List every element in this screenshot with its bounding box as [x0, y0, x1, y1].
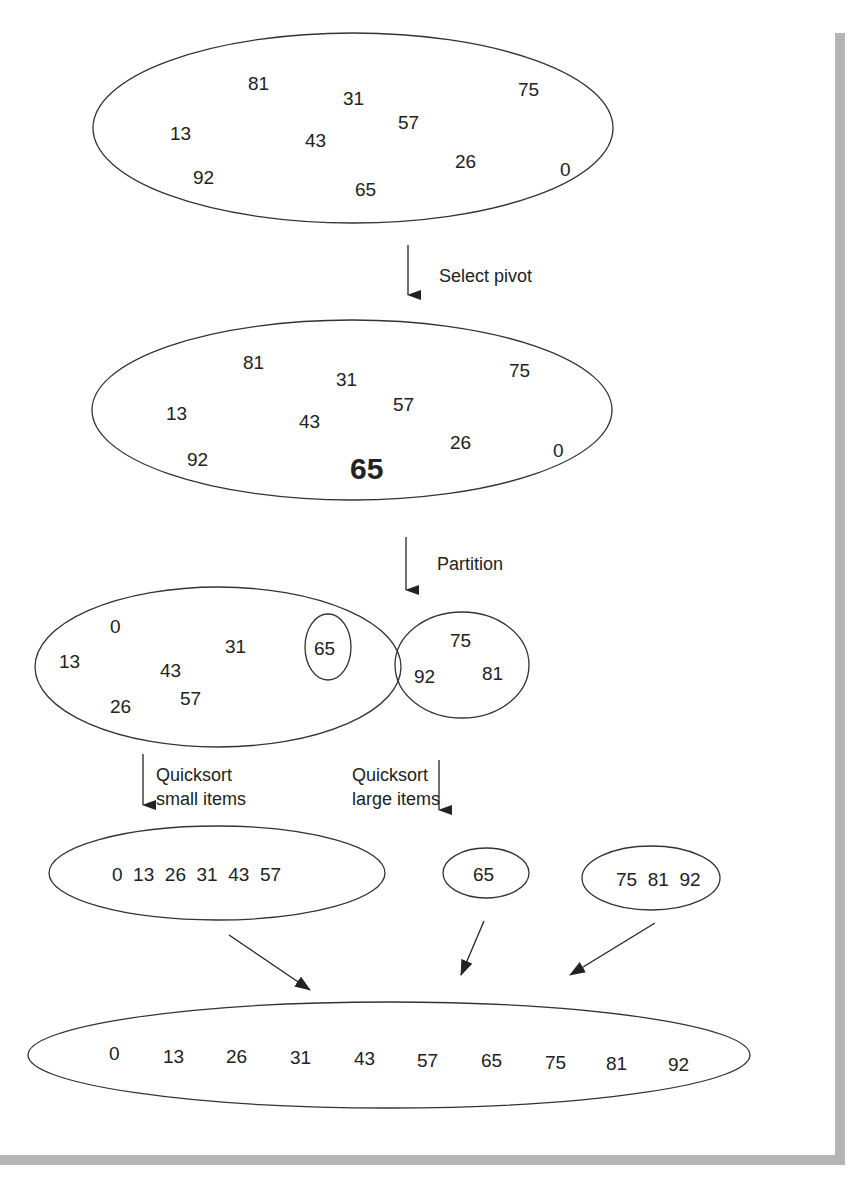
final-sorted: 0 13 26 31 43 57 65 75 81 92	[28, 1002, 750, 1108]
final-item: 31	[290, 1047, 311, 1068]
select-pivot-step: Select pivot	[408, 245, 532, 295]
initial-item: 13	[170, 123, 191, 144]
sorted-pivot: 65	[443, 848, 529, 898]
sorted-pivot-item: 65	[473, 864, 494, 885]
quicksort-small-label: small items	[156, 789, 246, 809]
final-item: 43	[354, 1048, 375, 1069]
sorted-large: 75 81 92	[582, 846, 720, 910]
sorted-large-items: 75 81 92	[616, 869, 701, 890]
final-sorted-ellipse	[28, 1002, 750, 1108]
sorted-small-items: 0 13 26 31 43 57	[112, 864, 281, 885]
small-item: 57	[180, 688, 201, 709]
pivot-set-item: 57	[393, 394, 414, 415]
final-item: 92	[668, 1054, 689, 1075]
quicksort-diagram: 81 31 75 13 43 57 26 0 92 65 Select pivo…	[0, 0, 854, 1177]
pivot-set-item: 26	[450, 432, 471, 453]
pivot-set-item: 13	[166, 403, 187, 424]
select-pivot-label: Select pivot	[439, 266, 532, 286]
small-item: 26	[110, 696, 131, 717]
initial-item: 65	[355, 179, 376, 200]
initial-item: 26	[455, 151, 476, 172]
initial-set: 81 31 75 13 43 57 26 0 92 65	[93, 33, 613, 223]
large-item: 81	[482, 663, 503, 684]
pivot-set-item: 81	[243, 352, 264, 373]
final-item: 13	[163, 1046, 184, 1067]
pivot-set: 81 31 75 13 43 57 26 0 92 65	[92, 320, 612, 500]
partition-pivot: 65	[305, 614, 351, 680]
small-item: 13	[59, 651, 80, 672]
merge-arrow-icon	[570, 923, 655, 975]
final-item: 0	[109, 1043, 120, 1064]
quicksort-small-step: Quicksort small items	[143, 754, 246, 809]
pivot-item: 65	[350, 452, 383, 485]
merge-arrow-icon	[461, 921, 484, 975]
initial-item: 81	[248, 73, 269, 94]
initial-item: 43	[305, 130, 326, 151]
final-item: 75	[545, 1052, 566, 1073]
quicksort-small-label: Quicksort	[156, 765, 232, 785]
large-item: 75	[450, 630, 471, 651]
large-item: 92	[414, 666, 435, 687]
small-item: 0	[110, 616, 121, 637]
pivot-set-item: 43	[299, 411, 320, 432]
quicksort-large-step: Quicksort large items	[352, 760, 440, 810]
pivot-set-item: 92	[187, 449, 208, 470]
pivot-set-item: 75	[509, 360, 530, 381]
merge-arrow-icon	[229, 935, 310, 990]
final-item: 57	[417, 1050, 438, 1071]
initial-item: 75	[518, 79, 539, 100]
initial-item: 31	[343, 88, 364, 109]
quicksort-large-label: large items	[352, 789, 440, 809]
small-item: 43	[160, 660, 181, 681]
initial-item: 57	[398, 112, 419, 133]
sorted-small: 0 13 26 31 43 57	[49, 826, 385, 920]
final-item: 26	[226, 1046, 247, 1067]
small-item: 31	[225, 636, 246, 657]
partition-step: Partition	[406, 537, 503, 590]
pivot-set-item: 31	[336, 369, 357, 390]
quicksort-large-label: Quicksort	[352, 765, 428, 785]
pivot-item: 65	[314, 638, 335, 659]
partition-large: 75 92 81	[395, 612, 529, 718]
final-item: 81	[606, 1053, 627, 1074]
initial-item: 92	[193, 167, 214, 188]
initial-item: 0	[560, 159, 571, 180]
large-items-ellipse	[395, 612, 529, 718]
final-item: 65	[481, 1050, 502, 1071]
pivot-set-item: 0	[553, 440, 564, 461]
partition-label: Partition	[437, 554, 503, 574]
